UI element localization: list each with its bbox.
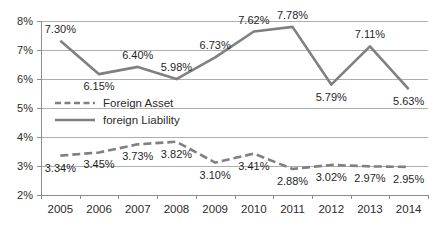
- x-axis-category-label: 2010: [241, 203, 267, 215]
- data-point-label: 7.78%: [277, 9, 308, 21]
- data-point-label: 3.41%: [238, 160, 269, 172]
- data-point-label: 7.30%: [45, 23, 76, 35]
- data-point-label: 7.62%: [238, 14, 269, 26]
- data-point-label: 5.98%: [161, 61, 192, 73]
- x-axis-category-label: 2006: [86, 203, 112, 215]
- data-point-label: 6.15%: [83, 80, 114, 92]
- data-point-label: 3.02%: [316, 171, 347, 183]
- legend-label-1: Foreign Asset: [103, 97, 174, 109]
- y-axis-tick-label: 3%: [17, 160, 33, 172]
- y-axis-tick-label: 5%: [17, 102, 33, 114]
- x-axis-category-label: 2013: [357, 203, 383, 215]
- x-axis-category-label: 2005: [48, 203, 74, 215]
- x-axis-category-label: 2014: [396, 203, 422, 215]
- data-point-label: 2.95%: [393, 173, 424, 185]
- y-axis-tick-label: 7%: [17, 44, 33, 56]
- data-point-label: 3.10%: [200, 169, 231, 181]
- data-point-label: 3.73%: [122, 150, 153, 162]
- x-axis-category-label: 2011: [280, 203, 305, 215]
- x-axis-category-label: 2007: [125, 203, 151, 215]
- data-point-label: 6.40%: [122, 49, 153, 61]
- line-chart: 2%3%4%5%6%7%8% 2005200620072008200920102…: [0, 0, 445, 226]
- y-axis-tick-label: 2%: [17, 189, 33, 201]
- data-point-label: 7.11%: [355, 28, 386, 40]
- data-point-label: 3.34%: [45, 162, 76, 174]
- x-axis-category-label: 2008: [164, 203, 190, 215]
- x-axis-category-label: 2012: [318, 203, 344, 215]
- data-point-label: 2.97%: [354, 172, 385, 184]
- x-axis-category-label: 2009: [202, 203, 228, 215]
- data-point-label: 2.88%: [277, 175, 308, 187]
- y-axis-tick-label: 8%: [17, 15, 33, 27]
- data-point-label: 3.82%: [161, 148, 192, 160]
- y-axis-tick-label: 4%: [17, 131, 33, 143]
- data-point-label: 5.79%: [316, 91, 347, 103]
- data-point-label: 6.73%: [200, 39, 231, 51]
- y-axis-tick-label: 6%: [17, 73, 33, 85]
- data-point-label: 5.63%: [393, 95, 424, 107]
- legend-label-2: foreign Liability: [103, 114, 180, 126]
- data-point-label: 3.45%: [83, 158, 114, 170]
- chart-canvas: 2%3%4%5%6%7%8% 2005200620072008200920102…: [0, 0, 445, 226]
